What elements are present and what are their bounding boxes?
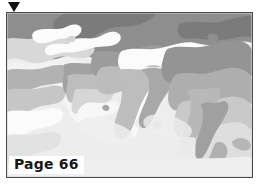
page-caption: Page 66 — [9, 156, 84, 174]
map-canvas — [7, 13, 252, 177]
down-triangle-marker-icon — [8, 2, 20, 12]
map-figure: Page 66 — [6, 12, 253, 178]
